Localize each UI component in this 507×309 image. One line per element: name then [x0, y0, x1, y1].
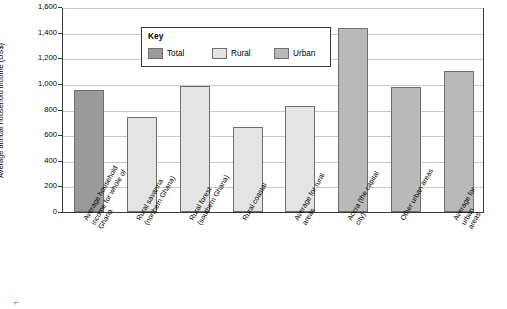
legend-swatch	[274, 48, 289, 59]
chart-legend: Key TotalRuralUrban	[141, 27, 331, 67]
y-tick-label: 600	[17, 131, 57, 139]
chart-container: Average annual household income (US$) Ke…	[0, 0, 507, 309]
legend-swatch	[212, 48, 227, 59]
legend-label: Total	[167, 49, 184, 58]
legend-label: Urban	[293, 49, 315, 58]
y-tick-label: 1,000	[17, 80, 57, 88]
page-corner-mark: ⌐	[14, 297, 19, 307]
y-tick-label: 800	[17, 106, 57, 114]
y-tick-mark	[58, 186, 62, 187]
y-tick-label: 1,200	[17, 54, 57, 62]
y-tick-mark	[58, 7, 62, 8]
y-tick-mark	[58, 33, 62, 34]
legend-label: Rural	[231, 49, 251, 58]
y-tick-mark	[58, 84, 62, 85]
y-tick-label: 400	[17, 157, 57, 165]
y-tick-mark	[58, 212, 62, 213]
y-tick-mark	[58, 110, 62, 111]
y-tick-mark	[58, 58, 62, 59]
legend-item: Total	[148, 48, 184, 59]
y-tick-label: 200	[17, 182, 57, 190]
y-tick-mark	[58, 135, 62, 136]
y-tick-label: 1,600	[17, 3, 57, 11]
legend-swatch	[148, 48, 163, 59]
y-tick-label: 0	[17, 208, 57, 216]
y-tick-mark	[58, 161, 62, 162]
legend-item: Rural	[212, 48, 251, 59]
legend-title: Key	[148, 31, 163, 41]
y-axis-title: Average annual household income (US$)	[0, 0, 5, 8]
y-tick-label: 1,400	[17, 29, 57, 37]
legend-item: Urban	[274, 48, 315, 59]
